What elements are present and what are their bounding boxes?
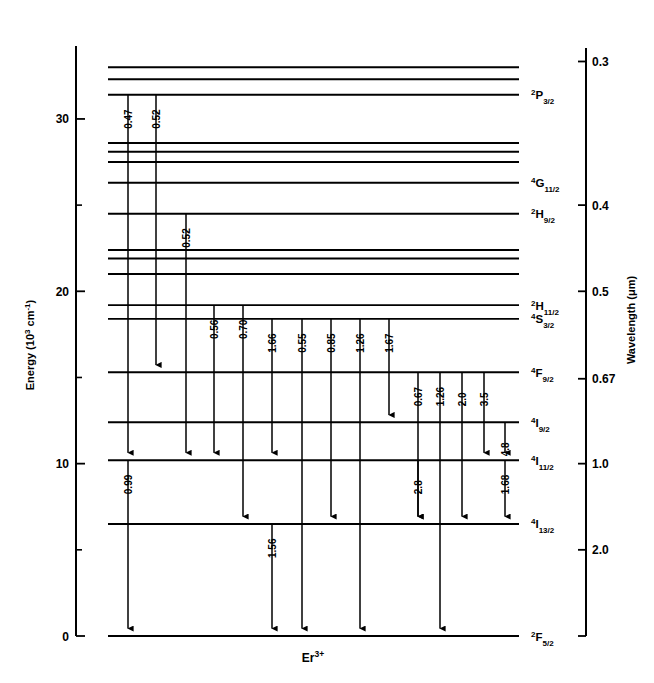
transition-label: 0.52	[181, 228, 192, 248]
level-term-subscript: 13/2	[539, 526, 555, 535]
level-term-label: 4G11/2	[531, 176, 560, 194]
right-axis-tick-label: 0.4	[592, 199, 609, 213]
left-axis: 0102030	[56, 46, 85, 644]
level-term-subscript: 9/2	[542, 374, 554, 383]
transition-label: 0.55	[297, 333, 308, 353]
level-term-subscript: 3/2	[543, 97, 555, 106]
level-term-subscript: 9/2	[544, 216, 556, 225]
transition-arrow[interactable]: 2.8	[413, 460, 424, 516]
left-axis-title-unit: cm	[24, 310, 36, 329]
right-axis-title: Wavelength (μm)	[625, 276, 637, 365]
transition-label: 0.99	[123, 474, 134, 494]
level-term-label: 2H9/2	[531, 207, 555, 225]
transition-label: 2.8	[413, 480, 424, 494]
transition-label: 1.67	[384, 333, 395, 353]
right-axis-tick-label: 2.0	[592, 543, 609, 557]
transition-label: 0.85	[326, 333, 337, 353]
transition-label: 0.56	[209, 319, 220, 339]
transition-arrow[interactable]: 1.67	[384, 319, 395, 415]
level-term-label: 2P3/2	[531, 88, 555, 106]
transition-arrow[interactable]: 1.26	[355, 319, 366, 629]
level-term-subscript: 11/2	[544, 185, 560, 194]
level-term-letter: G	[535, 177, 544, 189]
left-axis-tick-label: 30	[56, 112, 70, 126]
left-axis-tick-label: 0	[62, 630, 69, 644]
transition-arrow[interactable]: 3.5	[479, 372, 490, 453]
right-axis-tick-label: 0.5	[592, 285, 609, 299]
transition-arrow[interactable]: 4.8	[500, 422, 511, 456]
transition-arrow[interactable]: 0.99	[123, 460, 134, 628]
left-axis-title-close: )	[24, 299, 36, 303]
right-axis-tick-label: 0.67	[592, 372, 616, 386]
level-term-label: 4I11/2	[531, 453, 554, 471]
left-axis-title: Energy (103 cm-1)	[23, 299, 37, 390]
transition-label: 0.52	[151, 109, 162, 129]
level-term-letter: F	[535, 367, 542, 379]
level-term-letter: F	[535, 631, 542, 643]
transition-label: 1.26	[355, 333, 366, 353]
transition-arrow[interactable]: 2.0	[457, 372, 468, 516]
ion-label-base: Er	[302, 651, 315, 665]
transition-arrow[interactable]: 0.52	[151, 95, 162, 365]
ion-label: Er3+	[302, 649, 324, 665]
transition-arrow[interactable]: 1.56	[267, 524, 278, 629]
level-term-subscript: 5/2	[542, 638, 554, 647]
level-term-subscript: 11/2	[539, 462, 555, 471]
level-term-label: 4I9/2	[531, 415, 550, 433]
level-term-label: 2F5/2	[531, 629, 554, 647]
levels-group: 2P3/24G11/22H9/22H11/24S3/24F9/24I9/24I1…	[108, 67, 560, 647]
left-axis-title-text: Energy (103 cm-1)	[23, 299, 37, 390]
energy-level-diagram: 0102030Energy (103 cm-1)0.30.40.50.671.0…	[0, 0, 654, 683]
level-term-subscript: 9/2	[539, 424, 551, 433]
transition-label: 0.67	[413, 386, 424, 406]
diagram-canvas: 0102030Energy (103 cm-1)0.30.40.50.671.0…	[0, 0, 654, 683]
left-axis-title-main: Energy (10	[24, 334, 36, 390]
right-axis-tick-label: 1.0	[592, 457, 609, 471]
transition-label: 1.56	[267, 538, 278, 558]
left-axis-tick-label: 10	[56, 457, 70, 471]
level-term-letter: H	[535, 208, 543, 220]
level-term-subscript: 3/2	[543, 321, 555, 330]
level-term-label: 4I13/2	[531, 517, 555, 535]
transition-arrow[interactable]: 1.68	[500, 460, 511, 516]
level-term-letter: H	[535, 300, 543, 312]
transition-arrow[interactable]: 1.26	[435, 372, 446, 628]
transition-label: 4.8	[500, 442, 511, 456]
transition-label: 1.66	[267, 333, 278, 353]
level-term-label: 4F9/2	[531, 365, 554, 383]
ion-label-superscript: 3+	[314, 649, 324, 659]
transition-label: 1.26	[435, 386, 446, 406]
transition-label: 0.70	[238, 319, 249, 339]
right-axis: 0.30.40.50.671.02.0	[578, 48, 616, 636]
left-axis-tick-label: 20	[56, 285, 70, 299]
transition-arrow[interactable]: 0.70	[238, 305, 249, 516]
transition-arrow[interactable]: 0.56	[209, 305, 220, 453]
transitions-group: 0.470.520.520.560.701.660.550.851.261.67…	[123, 95, 511, 629]
level-term-subscript: 11/2	[544, 307, 560, 316]
transition-label: 1.68	[500, 474, 511, 494]
right-axis-tick-label: 0.3	[592, 55, 609, 69]
transition-arrow[interactable]: 1.66	[267, 319, 278, 453]
transition-arrow[interactable]: 0.55	[297, 319, 308, 629]
transition-arrow[interactable]: 0.85	[326, 319, 337, 517]
transition-label: 3.5	[479, 392, 490, 406]
transition-label: 2.0	[457, 392, 468, 406]
transition-label: 0.47	[123, 109, 134, 129]
